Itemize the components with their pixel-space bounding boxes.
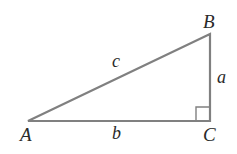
side-label-a: a [217,68,226,86]
right-angle-marker [196,107,210,121]
side-label-c: c [112,52,120,70]
triangle-outline [28,34,210,121]
side-label-b: b [112,124,121,142]
vertex-label-b: B [203,12,215,31]
vertex-label-c: C [203,125,216,144]
right-triangle-diagram: A B C a b c [0,0,237,154]
vertex-label-a: A [20,125,32,144]
